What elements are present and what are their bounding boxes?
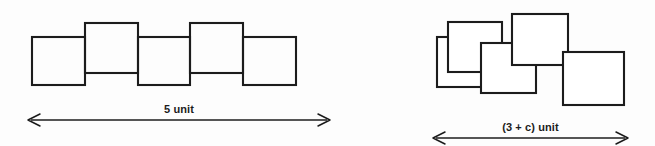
- left-square-4: [190, 23, 243, 73]
- left-square-5: [243, 37, 296, 85]
- left-measure-arrow: [28, 114, 330, 126]
- diagram-canvas: 5 unit (3 + c) unit: [0, 0, 655, 146]
- right-square-4: [512, 14, 568, 65]
- right-measure-arrow: [433, 132, 628, 144]
- left-measurement-label: 5 unit: [28, 103, 330, 115]
- left-square-3: [138, 37, 190, 85]
- left-figure-squares: [32, 23, 296, 85]
- right-measurement-label: (3 + c) unit: [433, 121, 628, 133]
- left-square-1: [32, 37, 85, 85]
- right-square-5: [563, 52, 624, 105]
- left-square-2: [85, 23, 138, 73]
- right-figure-squares: [437, 14, 624, 105]
